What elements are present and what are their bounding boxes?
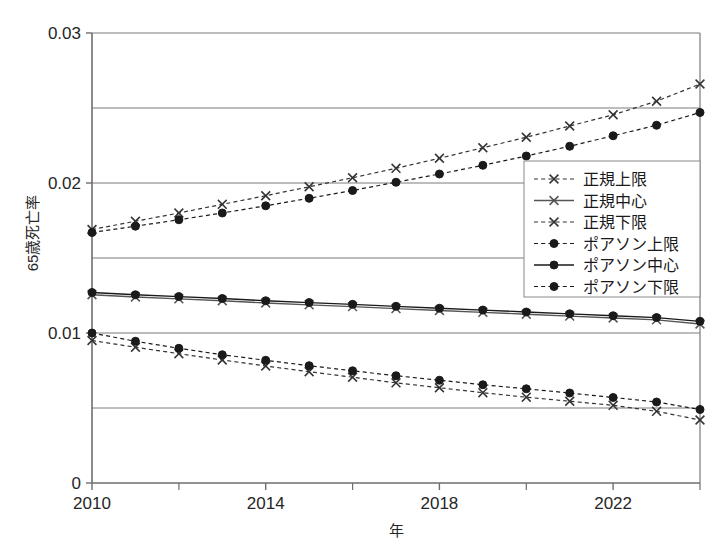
marker-dot xyxy=(131,291,139,299)
marker-dot xyxy=(435,304,443,312)
marker-dot xyxy=(305,362,313,370)
marker-dot xyxy=(653,121,661,129)
marker-dot xyxy=(131,222,139,230)
y-tick-label: 0.02 xyxy=(48,174,81,193)
marker-dot xyxy=(566,310,574,318)
marker-dot xyxy=(262,356,270,364)
x-tick-label: 2022 xyxy=(594,494,632,513)
marker-dot xyxy=(479,381,487,389)
marker-dot xyxy=(392,302,400,310)
marker-dot xyxy=(696,109,704,117)
marker-dot xyxy=(262,297,270,305)
marker-dot xyxy=(653,398,661,406)
marker-dot xyxy=(696,317,704,325)
legend-item-label: ポアソン上限 xyxy=(583,235,679,254)
marker-dot xyxy=(88,329,96,337)
x-axis-title: 年 xyxy=(389,522,404,539)
legend-item-label: 正規中心 xyxy=(583,192,647,211)
marker-dot xyxy=(522,152,530,160)
marker-dot xyxy=(88,229,96,237)
marker-dot xyxy=(550,240,558,248)
marker-dot xyxy=(305,194,313,202)
marker-dot xyxy=(696,406,704,414)
chart-container: 00.010.020.032010201420182022年65歳死亡率正規上限… xyxy=(0,0,717,552)
marker-dot xyxy=(566,142,574,150)
marker-dot xyxy=(349,187,357,195)
marker-dot xyxy=(392,178,400,186)
legend-item-label: 正規下限 xyxy=(583,213,647,232)
marker-dot xyxy=(435,170,443,178)
marker-dot xyxy=(131,337,139,345)
marker-dot xyxy=(175,216,183,224)
marker-dot xyxy=(479,161,487,169)
marker-dot xyxy=(218,351,226,359)
marker-dot xyxy=(392,372,400,380)
marker-dot xyxy=(218,295,226,303)
marker-dot xyxy=(349,367,357,375)
marker-dot xyxy=(175,293,183,301)
marker-dot xyxy=(435,376,443,384)
legend-item-label: ポアソン中心 xyxy=(583,256,679,275)
series-6 xyxy=(88,329,704,414)
y-tick-label: 0.01 xyxy=(48,324,81,343)
marker-dot xyxy=(609,394,617,402)
marker-dot xyxy=(550,261,558,269)
y-tick-label: 0.03 xyxy=(48,24,81,43)
x-tick-label: 2018 xyxy=(420,494,458,513)
marker-dot xyxy=(88,289,96,297)
x-tick-label: 2010 xyxy=(73,494,111,513)
marker-dot xyxy=(522,385,530,393)
x-tick-label: 2014 xyxy=(247,494,285,513)
legend-item-label: ポアソン下限 xyxy=(583,278,679,297)
mortality-rate-line-chart: 00.010.020.032010201420182022年65歳死亡率正規上限… xyxy=(0,0,717,552)
y-tick-label: 0 xyxy=(72,474,81,493)
legend-item-label: 正規上限 xyxy=(583,170,647,189)
y-axis: 00.010.020.03 xyxy=(48,24,92,493)
legend: 正規上限正規中心正規下限ポアソン上限ポアソン中心ポアソン下限 xyxy=(524,161,700,297)
marker-dot xyxy=(566,389,574,397)
marker-dot xyxy=(609,132,617,140)
marker-dot xyxy=(305,299,313,307)
marker-dot xyxy=(218,209,226,217)
marker-dot xyxy=(550,283,558,291)
marker-dot xyxy=(262,202,270,210)
marker-dot xyxy=(653,314,661,322)
marker-dot xyxy=(522,308,530,316)
marker-dot xyxy=(349,300,357,308)
marker-dot xyxy=(479,306,487,314)
marker-dot xyxy=(609,312,617,320)
x-axis: 2010201420182022 xyxy=(73,483,700,513)
marker-dot xyxy=(175,344,183,352)
y-axis-title: 65歳死亡率 xyxy=(24,195,41,272)
